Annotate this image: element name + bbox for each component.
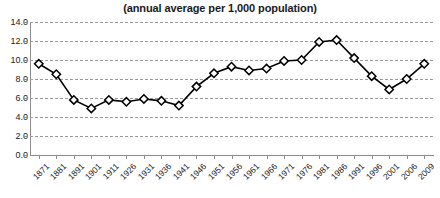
x-tick-label: 1991 [347,162,367,182]
x-tick-label: 1976 [294,162,314,182]
y-tick-mark [24,79,28,80]
x-tick-label: 1971 [277,162,297,182]
x-tick-label: 1871 [31,162,51,182]
x-tick-label: 1956 [224,162,244,182]
data-series-line [30,22,433,155]
x-tick-label: 1966 [259,162,279,182]
x-tick-label: 2001 [382,162,402,182]
x-tick-label: 1891 [66,162,86,182]
data-point-marker [35,60,43,68]
data-point-marker [227,62,235,70]
data-point-marker [262,64,270,72]
y-axis-labels: 14.012.010.08.06.04.02.00.0 [0,22,28,155]
x-tick-label: 1986 [329,162,349,182]
x-tick-label: 1931 [136,162,156,182]
data-point-marker [105,96,113,104]
x-tick-label: 1936 [154,162,174,182]
x-tick-label: 1901 [84,162,104,182]
x-tick-label: 1941 [171,162,191,182]
y-tick-mark [24,60,28,61]
y-tick-mark [24,22,28,23]
series-path [39,40,424,108]
x-tick-label: 1946 [189,162,209,182]
data-point-marker [157,97,165,105]
x-tick-label: 2006 [399,162,419,182]
x-tick-label: 1981 [312,162,332,182]
data-point-marker [140,95,148,103]
x-tick-label: 1951 [207,162,227,182]
y-tick-mark [24,117,28,118]
data-point-marker [280,57,288,65]
x-tick-label: 1911 [101,162,120,181]
y-tick-mark [24,136,28,137]
data-point-marker [87,104,95,112]
x-tick-label: 1961 [242,162,262,182]
y-tick-mark [24,41,28,42]
x-tick-label: 1881 [49,162,69,182]
x-tick-label: 1996 [364,162,384,182]
x-tick-label: 1926 [119,162,139,182]
chart-container: (annual average per 1,000 population) 14… [0,0,440,198]
x-tick-label: 2009 [417,162,437,182]
y-tick-mark [24,98,28,99]
data-point-marker [122,98,130,106]
plot-area [30,22,433,155]
data-point-marker [245,66,253,74]
chart-title: (annual average per 1,000 population) [0,0,440,16]
x-axis-labels: 1871188118911901191119261931193619411946… [0,155,440,198]
